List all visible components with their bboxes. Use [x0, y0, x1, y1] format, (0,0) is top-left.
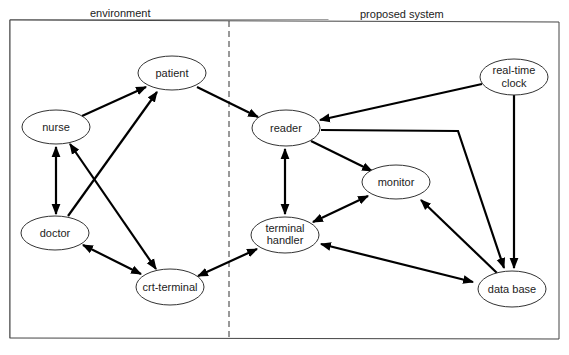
- node-label: data base: [488, 283, 536, 295]
- node-label: monitor: [378, 176, 415, 188]
- node-label: nurse: [42, 121, 70, 133]
- node-nurse: nurse: [22, 110, 90, 144]
- node-label-line2: handler: [267, 234, 304, 246]
- node-crt-terminal: crt-terminal: [136, 269, 204, 305]
- node-monitor: monitor: [362, 165, 430, 199]
- proposed-system-title: proposed system: [360, 8, 444, 20]
- node-label-line1: real-time: [493, 64, 536, 76]
- environment-title: environment: [90, 7, 151, 19]
- node-label: reader: [270, 122, 302, 134]
- node-label: patient: [155, 67, 188, 79]
- node-patient: patient: [138, 56, 206, 90]
- node-doctor: doctor: [21, 216, 89, 250]
- node-label-line1: terminal: [265, 222, 304, 234]
- node-real-time-clock: real-time clock: [480, 59, 548, 95]
- context-diagram: environment proposed system patient nurs…: [0, 0, 569, 355]
- node-reader: reader: [252, 110, 320, 146]
- node-label: doctor: [40, 227, 71, 239]
- node-data-base: data base: [478, 271, 546, 307]
- node-label: crt-terminal: [142, 281, 197, 293]
- node-label-line2: clock: [501, 77, 527, 89]
- node-terminal-handler: terminal handler: [251, 217, 319, 253]
